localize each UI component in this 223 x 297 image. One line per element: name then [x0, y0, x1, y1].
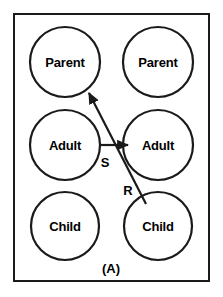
figure-container: Parent Parent Adult Adult Child Child S …	[0, 0, 223, 297]
node-label-left-parent: Parent	[45, 55, 84, 70]
node-label-left-adult: Adult	[49, 138, 81, 153]
node-label-left-child: Child	[49, 219, 81, 234]
figure-caption: (A)	[102, 261, 120, 276]
node-label-right-adult: Adult	[142, 138, 174, 153]
edge-label-response: R	[123, 183, 132, 198]
node-label-right-parent: Parent	[138, 55, 177, 70]
node-label-right-child: Child	[142, 219, 174, 234]
edge-label-stimulus: S	[101, 155, 110, 170]
diagram-canvas	[0, 0, 223, 297]
